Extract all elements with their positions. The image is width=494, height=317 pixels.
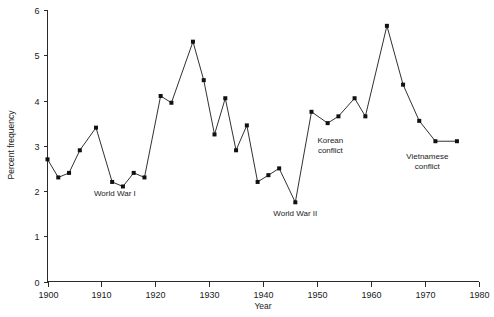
- data-point-marker: [110, 180, 114, 184]
- x-axis-tick-labels: 190019101920193019401950196019701980: [38, 290, 489, 300]
- x-tick-label: 1980: [469, 290, 489, 300]
- x-tick-label: 1940: [253, 290, 273, 300]
- x-tick-label: 1930: [199, 290, 219, 300]
- data-point-marker: [191, 40, 195, 44]
- series-markers: [46, 24, 459, 204]
- data-point-marker: [169, 101, 173, 105]
- data-point-marker: [336, 114, 340, 118]
- data-point-marker: [78, 148, 82, 152]
- data-point-marker: [67, 171, 71, 175]
- annotation-line-1: Vietnamese: [406, 152, 449, 161]
- data-point-marker: [326, 121, 330, 125]
- data-series: [46, 24, 459, 204]
- x-tick-label: 1900: [38, 290, 58, 300]
- data-point-marker: [159, 94, 163, 98]
- data-point-marker: [202, 78, 206, 82]
- x-tick-label: 1970: [415, 290, 435, 300]
- x-tick-label: 1910: [91, 290, 111, 300]
- data-point-marker: [309, 110, 313, 114]
- y-axis-ticks: [44, 11, 48, 283]
- annotation-korean: Koreanconflict: [317, 136, 343, 155]
- y-tick-label: 2: [34, 187, 39, 197]
- y-tick-label: 3: [34, 142, 39, 152]
- chart-annotations: World War IWorld War IIKoreanconflictVie…: [94, 136, 449, 217]
- data-point-marker: [401, 83, 405, 87]
- annotation-line-1: Korean: [317, 136, 343, 145]
- data-point-marker: [433, 139, 437, 143]
- data-point-marker: [94, 126, 98, 130]
- data-point-marker: [363, 114, 367, 118]
- y-tick-label: 6: [34, 6, 39, 16]
- x-axis: 190019101920193019401950196019701980: [38, 282, 489, 300]
- annotation-vietnam: Vietnameseconflict: [406, 152, 449, 171]
- data-point-marker: [417, 119, 421, 123]
- data-point-marker: [353, 96, 357, 100]
- data-point-marker: [385, 24, 389, 28]
- data-point-marker: [56, 175, 60, 179]
- data-point-marker: [293, 200, 297, 204]
- data-point-marker: [256, 180, 260, 184]
- data-point-marker: [46, 157, 50, 161]
- x-axis-ticks: [49, 282, 480, 287]
- y-tick-label: 5: [34, 51, 39, 61]
- series-line-percent-frequency: [48, 26, 457, 202]
- x-tick-label: 1920: [145, 290, 165, 300]
- x-tick-label: 1950: [307, 290, 327, 300]
- y-tick-label: 0: [34, 278, 39, 288]
- y-axis: 0123456: [34, 6, 47, 288]
- data-point-marker: [277, 166, 281, 170]
- y-axis-tick-labels: 0123456: [34, 6, 39, 288]
- line-chart: 0123456 19001910192019301940195019601970…: [0, 0, 494, 317]
- annotation-ww2: World War II: [273, 209, 317, 218]
- y-tick-label: 1: [34, 232, 39, 242]
- annotation-line-2: conflict: [318, 146, 344, 155]
- annotation-ww1: World War I: [94, 189, 136, 198]
- data-point-marker: [132, 171, 136, 175]
- data-point-marker: [213, 132, 217, 136]
- data-point-marker: [455, 139, 459, 143]
- x-axis-title: Year: [254, 301, 271, 311]
- y-tick-label: 4: [34, 97, 39, 107]
- data-point-marker: [245, 123, 249, 127]
- annotation-line-2: conflict: [415, 162, 441, 171]
- data-point-marker: [223, 96, 227, 100]
- y-axis-title: Percent frequency: [6, 110, 16, 180]
- chart-container: 0123456 19001910192019301940195019601970…: [0, 0, 494, 317]
- data-point-marker: [234, 148, 238, 152]
- x-tick-label: 1960: [361, 290, 381, 300]
- data-point-marker: [266, 173, 270, 177]
- data-point-marker: [142, 175, 146, 179]
